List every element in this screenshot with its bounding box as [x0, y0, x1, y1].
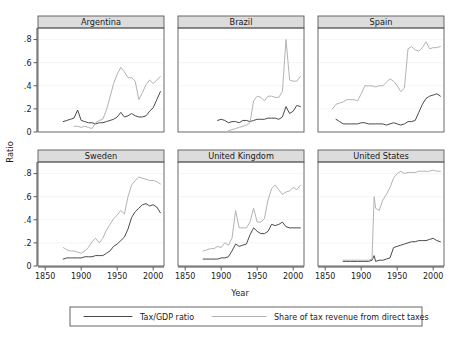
x-tick-label: 1900 — [71, 272, 91, 281]
x-axis-label: Year — [230, 288, 249, 298]
panel-title: Sweden — [85, 151, 117, 161]
x-tick-label: 2000 — [283, 272, 303, 281]
x-tick-label: 2000 — [423, 272, 443, 281]
x-tick-label: 1900 — [211, 272, 231, 281]
x-tick-label: 1950 — [387, 272, 407, 281]
tax-ratio-small-multiples-figure: ArgentinaBrazilSpainSwedenUnited Kingdom… — [0, 0, 463, 339]
y-tick-label: 0 — [26, 262, 31, 271]
x-tick-label: 2000 — [143, 272, 163, 281]
panel-title: United States — [353, 151, 408, 161]
y-tick-label: .8 — [24, 169, 32, 178]
y-tick-label: .2 — [24, 105, 32, 114]
legend-label-tax-gdp-ratio: Tax/GDP ratio — [139, 313, 194, 322]
x-tick-label: 1850 — [175, 272, 195, 281]
y-tick-label: .4 — [24, 82, 32, 91]
y-tick-label: .4 — [24, 216, 32, 225]
y-tick-label: .6 — [24, 193, 32, 202]
legend-label-direct-tax-share: Share of tax revenue from direct taxes — [274, 313, 429, 322]
panel-title: Spain — [370, 17, 393, 27]
panel-title: Brazil — [230, 17, 253, 27]
x-tick-label: 1950 — [247, 272, 267, 281]
panel-title: Argentina — [81, 17, 121, 27]
y-tick-label: .8 — [24, 35, 32, 44]
panel-title: United Kingdom — [208, 151, 274, 161]
chart-legend: Tax/GDP ratioShare of tax revenue from d… — [70, 307, 429, 326]
y-tick-label: .6 — [24, 59, 32, 68]
y-tick-label: .2 — [24, 239, 32, 248]
x-tick-label: 1900 — [351, 272, 371, 281]
x-tick-label: 1950 — [107, 272, 127, 281]
x-tick-label: 1850 — [315, 272, 335, 281]
chart-svg: ArgentinaBrazilSpainSwedenUnited Kingdom… — [0, 0, 463, 339]
x-tick-label: 1850 — [35, 272, 55, 281]
y-tick-label: 0 — [26, 128, 31, 137]
y-axis-label: Ratio — [5, 141, 15, 163]
